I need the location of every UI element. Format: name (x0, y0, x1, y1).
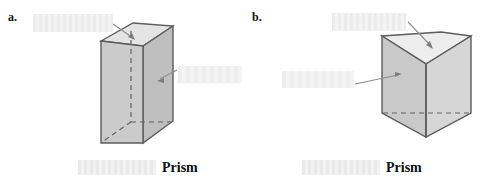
blank-caption-b[interactable] (302, 160, 380, 175)
caption-row-a: Prism (78, 160, 198, 175)
blank-caption-a[interactable] (78, 160, 156, 175)
worksheet-figure: a. Prism (0, 0, 491, 192)
prism-a-right-face (143, 26, 173, 143)
caption-word-b: Prism (386, 161, 422, 175)
caption-row-b: Prism (302, 160, 422, 175)
figure-item-a: a. Prism (0, 0, 245, 192)
figure-item-b: b. Prism (245, 0, 491, 192)
caption-word-a: Prism (162, 161, 198, 175)
